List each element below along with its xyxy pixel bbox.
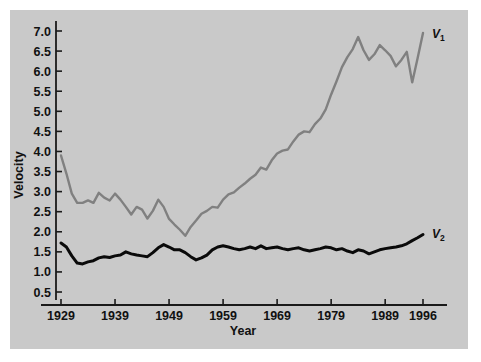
series-label-subscript: 2 bbox=[440, 233, 445, 243]
x-axis-tick-label: 1959 bbox=[209, 309, 237, 323]
x-axis-tick-label: 1979 bbox=[317, 309, 345, 323]
velocity-chart-figure: 0.51.01.52.02.53.03.54.04.55.05.56.06.57… bbox=[0, 0, 481, 362]
y-axis-tick-label: 6.0 bbox=[34, 65, 51, 79]
series-labels-group: V1V2 bbox=[432, 27, 445, 243]
x-axis-tick-label: 1939 bbox=[101, 309, 129, 323]
y-axis-tick-label: 7.0 bbox=[34, 25, 51, 39]
y-axis-tick-label: 6.5 bbox=[34, 45, 51, 59]
x-axis-tick-label: 1969 bbox=[263, 309, 291, 323]
y-axis-tick-label: 1.5 bbox=[34, 245, 51, 259]
axes-group: 0.51.01.52.02.53.03.54.04.55.05.56.06.57… bbox=[34, 21, 447, 323]
y-axis-tick-label: 2.5 bbox=[34, 205, 51, 219]
y-axis-tick-label: 0.5 bbox=[34, 286, 51, 300]
y-axis-tick-label: 4.5 bbox=[34, 125, 51, 139]
y-axis-tick-label: 5.5 bbox=[34, 85, 51, 99]
x-axis-tick-label: 1989 bbox=[371, 309, 399, 323]
y-axis-tick-label: 3.0 bbox=[34, 185, 51, 199]
series-label-v1: V1 bbox=[432, 27, 445, 43]
series-line-v2 bbox=[61, 235, 423, 264]
y-axis-title: Velocity bbox=[12, 151, 26, 198]
y-axis-tick-label: 2.0 bbox=[34, 225, 51, 239]
chart-canvas: 0.51.01.52.02.53.03.54.04.55.05.56.06.57… bbox=[0, 0, 481, 362]
y-axis-tick-label: 1.0 bbox=[34, 265, 51, 279]
x-axis-tick-label: 1996 bbox=[409, 309, 437, 323]
series-label-subscript: 1 bbox=[440, 33, 445, 43]
series-line-v1 bbox=[61, 33, 423, 236]
y-axis-tick-label: 4.0 bbox=[34, 145, 51, 159]
x-axis-tick-label: 1949 bbox=[155, 309, 183, 323]
series-group bbox=[61, 33, 423, 264]
x-axis-tick-label: 1929 bbox=[47, 309, 75, 323]
y-axis-tick-label: 5.0 bbox=[34, 105, 51, 119]
y-axis-tick-label: 3.5 bbox=[34, 165, 51, 179]
series-label-v2: V2 bbox=[432, 227, 445, 243]
x-axis-title: Year bbox=[230, 324, 257, 338]
